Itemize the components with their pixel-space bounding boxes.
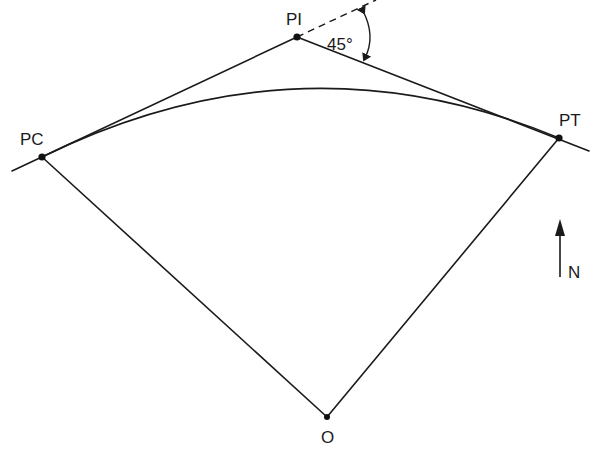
radius-o-to-pc <box>42 157 327 417</box>
label-north: N <box>568 263 580 282</box>
point-pi <box>293 33 300 40</box>
label-pc: PC <box>20 130 44 149</box>
point-pc <box>38 153 45 160</box>
label-pi: PI <box>286 10 302 29</box>
deflection-angle-arc <box>363 11 370 58</box>
label-pt: PT <box>559 111 581 130</box>
curve-diagram: PI PC PT O 45° N <box>0 0 593 460</box>
tangent-extension-dashed <box>297 0 376 37</box>
point-pt <box>555 134 562 141</box>
circular-curve-arc <box>42 88 559 157</box>
label-o: O <box>321 428 334 447</box>
forward-tangent-line <box>297 37 589 151</box>
label-angle: 45° <box>327 35 353 54</box>
point-o <box>324 414 330 420</box>
radius-o-to-pt <box>327 138 559 417</box>
north-arrow-icon <box>555 219 565 277</box>
